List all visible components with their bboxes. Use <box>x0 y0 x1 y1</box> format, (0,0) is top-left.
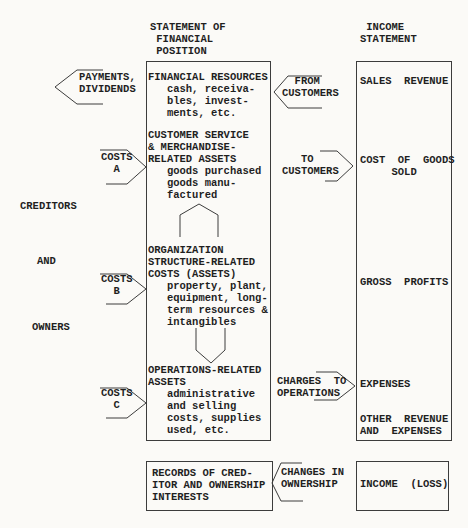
costs-c-label: COSTS C <box>101 387 133 411</box>
charges-to-operations-label: CHARGES TO OPERATIONS <box>277 375 346 399</box>
and-label: AND <box>37 255 56 267</box>
up-flow-arrow-icon <box>180 204 218 237</box>
to-customers-label: TO CUSTOMERS <box>282 153 339 177</box>
customer-service-section: CUSTOMER SERVICE & MERCHANDISE- RELATED … <box>148 129 261 201</box>
gross-profits-label: GROSS PROFITS <box>360 276 448 288</box>
other-revenue-and-expenses-label: OTHER REVENUE AND EXPENSES <box>360 413 448 437</box>
down-flow-arrow-icon <box>196 328 225 363</box>
costs-b-label: COSTS B <box>101 273 133 297</box>
creditors-label: CREDITORS <box>20 200 77 212</box>
from-customers-label: FROM CUSTOMERS <box>282 75 339 99</box>
records-of-creditor-label: RECORDS OF CRED- ITOR AND OWNERSHIP INTE… <box>152 467 265 503</box>
payments-dividends-label: PAYMENTS, DIVIDENDS <box>79 71 136 95</box>
accounting-flow-diagram: STATEMENT OF FINANCIAL POSITION INCOME S… <box>0 0 468 528</box>
organization-structure-section: ORGANIZATION STRUCTURE-RELATED COSTS (AS… <box>148 244 268 328</box>
changes-in-ownership-label: CHANGES IN OWNERSHIP <box>281 466 344 490</box>
financial-resources-section: FINANCIAL RESOURCES cash, receiva- bles,… <box>148 71 268 119</box>
operations-related-section: OPERATIONS-RELATED ASSETS administrative… <box>148 364 261 436</box>
expenses-label: EXPENSES <box>360 378 410 390</box>
income-loss-label: INCOME (LOSS) <box>360 478 448 490</box>
cost-of-goods-sold-label: COST OF GOODS SOLD <box>360 154 455 178</box>
owners-label: OWNERS <box>32 321 70 333</box>
costs-a-label: COSTS A <box>101 151 133 175</box>
sales-revenue-label: SALES REVENUE <box>360 75 448 87</box>
financial-position-header: STATEMENT OF FINANCIAL POSITION <box>150 21 226 57</box>
income-statement-header: INCOME STATEMENT <box>360 21 417 45</box>
